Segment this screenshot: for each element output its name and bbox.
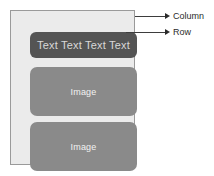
image-block-1-label: Image [70, 87, 96, 97]
arrow-right-icon [165, 29, 170, 35]
image-block-2[interactable]: Image [30, 122, 137, 171]
image-block-1[interactable]: Image [30, 67, 137, 116]
row-block-label: Text Text Text Text [37, 39, 130, 51]
arrow-right-icon [165, 13, 170, 19]
callout-column-label: Column [173, 11, 204, 21]
row-block-text[interactable]: Text Text Text Text [30, 32, 137, 58]
image-block-2-label: Image [70, 142, 96, 152]
diagram-canvas: Text Text Text Text Image Image Column R… [0, 0, 214, 176]
callout-column-leader-line [135, 16, 167, 17]
callout-row-label: Row [173, 27, 191, 37]
column-container[interactable]: Text Text Text Text Image Image [10, 10, 135, 165]
callout-row-leader-line [126, 32, 167, 33]
